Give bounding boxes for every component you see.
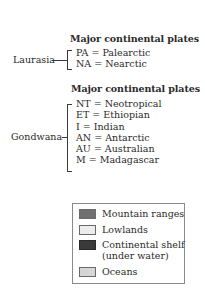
legend-label: Mountain ranges — [102, 209, 184, 220]
laurasia-bracket — [67, 50, 72, 70]
legend-item-oceans: Oceans — [79, 267, 137, 278]
gondwana-heading: Major continental plates — [71, 83, 200, 94]
oceans-swatch — [79, 267, 96, 277]
legend-label: Oceans — [102, 267, 137, 278]
mountain-ranges-swatch — [79, 209, 96, 219]
plate-indian: I = Indian — [76, 121, 162, 132]
legend-item-continental-shelf: Continental shelf (under water) — [79, 240, 185, 261]
lowlands-swatch — [79, 225, 96, 235]
map-legend: Mountain ranges Lowlands Continental she… — [72, 203, 185, 284]
laurasia-label: Laurasia — [13, 54, 55, 65]
plate-palearctic: PA = Palearctic — [76, 47, 150, 58]
legend-label: Continental shelf (under water) — [102, 240, 185, 261]
gondwana-plate-list: NT = Neotropical ET = Ethiopian I = Indi… — [76, 98, 162, 166]
legend-item-mountain-ranges: Mountain ranges — [79, 209, 184, 220]
plate-ethiopian: ET = Ethiopian — [76, 109, 162, 120]
continental-shelf-swatch — [79, 240, 96, 250]
plate-antarctic: AN = Antarctic — [76, 132, 162, 143]
laurasia-heading: Major continental plates — [70, 33, 199, 44]
legend-label-line1: Continental shelf — [102, 239, 185, 250]
gondwana-bracket — [67, 104, 72, 172]
laurasia-connector — [52, 60, 67, 61]
plate-nearctic: NA = Nearctic — [76, 58, 150, 69]
plate-australian: AU = Australian — [76, 143, 162, 154]
plate-madagascar: M = Madagascar — [76, 154, 162, 165]
legend-label-line2: (under water) — [102, 250, 169, 261]
legend-label: Lowlands — [102, 225, 148, 236]
gondwana-label: Gondwana — [11, 131, 62, 142]
laurasia-plate-list: PA = Palearctic NA = Nearctic — [76, 47, 150, 70]
plate-neotropical: NT = Neotropical — [76, 98, 162, 109]
legend-item-lowlands: Lowlands — [79, 225, 148, 236]
